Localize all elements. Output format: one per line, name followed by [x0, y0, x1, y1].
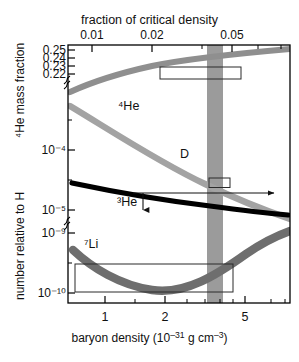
bbn-abundance-figure: fraction of critical density 0.01 0.02 0… [0, 0, 299, 362]
bottom-tick-label-1: 2 [162, 311, 169, 324]
bottom-axis-title-tail: g cm [185, 331, 214, 345]
series-label-he4: ⁴He [118, 100, 139, 113]
left-tick-label-6: 10⁻⁹ [42, 227, 67, 239]
left-tick-label-3: 0.22 [43, 68, 66, 80]
bottom-axis-title-close: ) [224, 331, 228, 345]
series-label-d: D [180, 148, 189, 161]
bottom-axis-title: baryon density (10–31 g cm–3) [0, 331, 299, 344]
top-tick-label-1: 0.02 [140, 29, 163, 41]
bottom-axis-title-main: baryon density (10 [71, 331, 170, 345]
left-tick-label-4: 10⁻⁴ [41, 144, 66, 156]
bottom-tick-label-0: 1 [102, 311, 109, 324]
y-axis-label-number-relative-to-h: number relative to H [14, 192, 26, 300]
series-label-li7: ⁷Li [84, 238, 98, 251]
top-axis-title: fraction of critical density [0, 14, 299, 27]
bottom-tick-label-2: 5 [242, 311, 249, 324]
top-tick-label-2: 0.05 [220, 29, 243, 41]
top-tick-label-0: 0.01 [80, 29, 103, 41]
bottom-axis-title-exp2: –3 [214, 330, 224, 340]
y-axis-label-he4-mass-fraction: ⁴He mass fraction [14, 43, 26, 138]
bottom-axis-title-exp1: –31 [170, 330, 184, 340]
series-label-he3: ³He [117, 196, 137, 209]
left-tick-label-7: 10⁻¹⁰ [38, 287, 66, 299]
left-tick-label-5: 10⁻⁵ [42, 204, 66, 216]
